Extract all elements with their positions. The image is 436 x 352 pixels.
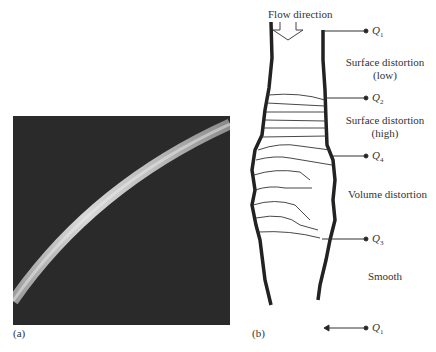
- marker-q2: Q2: [372, 91, 383, 106]
- panel-b-label: (b): [252, 327, 265, 339]
- marker-q3: Q3: [372, 232, 383, 247]
- region-surface-low: Surface distortion(low): [335, 56, 435, 82]
- region-smooth: Smooth: [355, 270, 415, 283]
- marker-q1-top: Q1: [372, 24, 383, 39]
- flow-arrow-icon: [273, 22, 303, 40]
- marker-q1-bottom: Q1: [372, 321, 383, 336]
- region-surface-high: Surface distortion(high): [335, 114, 435, 140]
- distortion-diagram: [0, 0, 436, 352]
- region-volume: Volume distortion: [340, 188, 435, 201]
- flow-direction-label: Flow direction: [268, 8, 332, 21]
- marker-q4: Q4: [372, 149, 383, 164]
